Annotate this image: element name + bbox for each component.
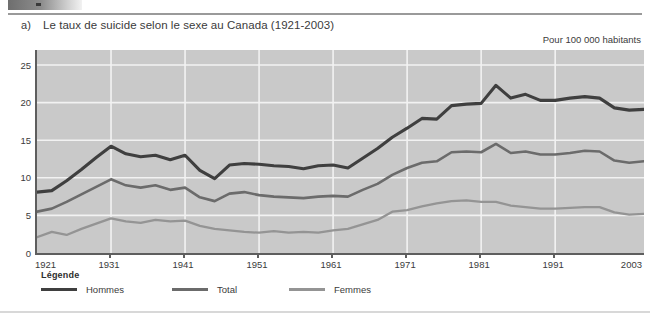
x-tick-label: 1941	[172, 259, 193, 270]
legend-label-hommes: Hommes	[86, 284, 124, 295]
logo-fragment	[8, 0, 82, 10]
x-tick-mark	[183, 253, 185, 258]
x-tick-mark	[553, 253, 555, 258]
chart-svg	[37, 50, 644, 253]
figure-label: a)	[21, 19, 31, 31]
series-lines	[37, 85, 644, 237]
plot-area	[35, 50, 644, 255]
legend-item-femmes[interactable]: Femmes	[289, 283, 371, 296]
chart-legend: Légende Hommes Total Femmes	[0, 270, 650, 302]
legend-label-total: Total	[217, 284, 237, 295]
y-axis: 0510152025	[0, 46, 31, 257]
units-note: Pour 100 000 habitants	[543, 34, 641, 45]
chart-container: 0510152025 19211931194119511961197119811…	[0, 46, 650, 268]
page-header-band	[0, 0, 650, 12]
legend-item-hommes[interactable]: Hommes	[41, 283, 124, 296]
x-tick-label: 1921	[35, 259, 56, 270]
x-tick-mark	[331, 253, 333, 258]
series-line-hommes	[37, 85, 644, 192]
x-tick-label: 1951	[246, 259, 267, 270]
legend-label-femmes: Femmes	[334, 284, 371, 295]
logo-dot-icon	[36, 3, 41, 6]
x-tick-label: 1971	[395, 259, 416, 270]
x-tick-mark	[479, 253, 481, 258]
x-tick-label: 1961	[321, 259, 342, 270]
y-tick-label: 0	[3, 249, 31, 258]
x-tick-mark	[109, 253, 111, 258]
x-tick-label: 1991	[543, 259, 564, 270]
page-title: Le taux de suicide selon le sexe au Cana…	[43, 19, 334, 31]
legend-item-total[interactable]: Total	[172, 283, 237, 296]
y-tick-label: 5	[3, 211, 31, 220]
x-tick-mark	[257, 253, 259, 258]
legend-swatch-femmes	[289, 288, 325, 291]
x-tick-label: 1931	[98, 259, 119, 270]
header-divider	[8, 13, 642, 15]
x-tick-label: 1981	[469, 259, 490, 270]
series-line-femmes	[37, 200, 644, 237]
x-tick-label: 2003	[621, 259, 642, 270]
y-tick-label: 25	[3, 61, 31, 70]
figure-title-row: a) Le taux de suicide selon le sexe au C…	[0, 19, 650, 35]
y-tick-label: 15	[3, 136, 31, 145]
y-tick-label: 10	[3, 173, 31, 182]
legend-title: Légende	[41, 270, 79, 280]
legend-swatch-hommes	[41, 288, 77, 291]
legend-swatch-total	[172, 288, 208, 291]
x-tick-mark	[405, 253, 407, 258]
y-tick-label: 20	[3, 98, 31, 107]
